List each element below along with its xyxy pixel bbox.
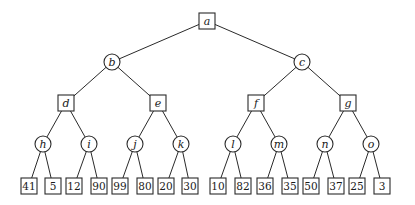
leaf-value: 5 (50, 180, 57, 192)
node-label: g (344, 97, 351, 110)
leaf-node-20: 20 (158, 178, 174, 194)
leaf-value: 3 (379, 180, 386, 192)
tree-node-c: c (294, 54, 310, 70)
tree-node-l: l (225, 136, 241, 152)
leaf-value: 37 (329, 180, 342, 192)
leaf-node-99: 99 (112, 178, 128, 194)
node-label: b (108, 56, 115, 69)
tree-node-m: m (271, 136, 287, 152)
leaf-node-36: 36 (257, 178, 273, 194)
leaf-value: 41 (22, 180, 35, 192)
tree-node-b: b (104, 54, 120, 70)
tree-node-k: k (173, 136, 189, 152)
tree-edge (112, 21, 207, 62)
node-label: k (178, 138, 185, 151)
node-label: c (299, 56, 305, 69)
leaf-node-50: 50 (303, 178, 319, 194)
node-label: o (368, 138, 375, 151)
leaf-node-25: 25 (349, 178, 365, 194)
leaf-node-12: 12 (66, 178, 82, 194)
node-label: i (87, 138, 91, 151)
leaf-node-80: 80 (137, 178, 153, 194)
tree-node-o: o (363, 136, 379, 152)
leaf-node-35: 35 (282, 178, 298, 194)
leaf-node-5: 5 (45, 178, 61, 194)
node-label: d (62, 97, 69, 110)
leaf-node-37: 37 (328, 178, 344, 194)
leaf-value: 25 (350, 180, 363, 192)
tree-node-g: g (340, 95, 356, 111)
node-label: a (204, 15, 211, 28)
leaf-node-3: 3 (374, 178, 390, 194)
tree-node-d: d (58, 95, 74, 111)
leaf-value: 99 (113, 180, 126, 192)
leaf-node-41: 41 (21, 178, 37, 194)
leaf-value: 35 (283, 180, 296, 192)
tree-node-e: e (150, 95, 166, 111)
leaf-node-30: 30 (182, 178, 198, 194)
leaf-node-82: 82 (235, 178, 251, 194)
tree-edge (207, 21, 302, 62)
tree-node-h: h (35, 136, 51, 152)
tree-node-i: i (81, 136, 97, 152)
leaf-value: 90 (92, 180, 105, 192)
leaf-value: 10 (211, 180, 224, 192)
tree-node-a: a (199, 13, 215, 29)
tree-node-n: n (317, 136, 333, 152)
leaf-value: 50 (304, 180, 317, 192)
node-label: l (231, 138, 235, 151)
tree-node-j: j (127, 136, 143, 152)
leaf-node-10: 10 (210, 178, 226, 194)
node-label: n (321, 138, 328, 151)
leaf-value: 82 (236, 180, 249, 192)
leaf-node-90: 90 (91, 178, 107, 194)
leaf-value: 30 (183, 180, 196, 192)
tree-node-f: f (248, 95, 264, 111)
node-label: h (39, 138, 46, 151)
leaf-value: 12 (67, 180, 80, 192)
leaf-value: 20 (159, 180, 172, 192)
leaf-value: 36 (258, 180, 272, 192)
leaf-value: 80 (138, 180, 151, 192)
game-tree-diagram: abcdefghijklmno4151290998020301082363550… (0, 0, 415, 205)
node-label: m (274, 138, 284, 151)
node-label: e (155, 97, 162, 110)
